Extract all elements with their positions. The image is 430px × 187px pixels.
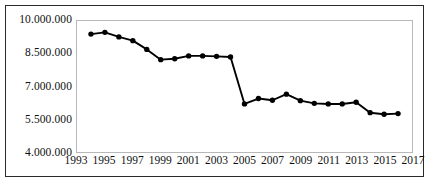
data-point xyxy=(116,34,121,39)
y-axis-tick-label: 10.000.000 xyxy=(0,14,72,26)
data-point xyxy=(256,96,261,101)
chart-figure: 10.000.0008.500.0007.000.0005.500.0004.0… xyxy=(0,0,430,187)
x-axis-tick-labels: 1993199519971999200120032005200720092011… xyxy=(76,155,413,173)
data-point xyxy=(353,100,358,105)
data-point xyxy=(367,110,372,115)
x-axis-tick-label: 2001 xyxy=(177,155,200,167)
plot-area xyxy=(76,20,413,153)
x-axis-tick-label: 2011 xyxy=(317,155,340,167)
x-axis-tick-label: 1997 xyxy=(121,155,144,167)
data-point xyxy=(214,54,219,59)
y-axis-tick-label: 5.500.000 xyxy=(0,114,72,126)
data-point xyxy=(340,101,345,106)
data-point xyxy=(242,101,247,106)
data-point xyxy=(395,111,400,116)
x-axis-tick-label: 2009 xyxy=(289,155,312,167)
y-axis-tick-label: 4.000.000 xyxy=(0,147,72,159)
data-point xyxy=(381,112,386,117)
data-point xyxy=(172,56,177,61)
x-axis-tick-label: 1999 xyxy=(149,155,172,167)
y-axis-tick-label: 7.000.000 xyxy=(0,81,72,93)
x-axis-tick-label: 2005 xyxy=(233,155,256,167)
data-point xyxy=(144,47,149,52)
data-point xyxy=(298,98,303,103)
data-point xyxy=(158,57,163,62)
data-point xyxy=(200,53,205,58)
data-point xyxy=(130,38,135,43)
data-point xyxy=(270,98,275,103)
data-point xyxy=(102,30,107,35)
x-axis-tick-label: 2003 xyxy=(205,155,228,167)
data-point xyxy=(186,53,191,58)
x-axis-tick-label: 2013 xyxy=(345,155,368,167)
data-point xyxy=(312,101,317,106)
data-point xyxy=(326,101,331,106)
x-axis-tick-label: 2017 xyxy=(402,155,425,167)
y-axis-tick-label: 8.500.000 xyxy=(0,47,72,59)
x-axis-tick-label: 1993 xyxy=(65,155,88,167)
x-axis-tick-label: 1995 xyxy=(93,155,116,167)
line-series xyxy=(77,21,412,152)
x-axis-tick-label: 2015 xyxy=(373,155,396,167)
x-axis-tick-label: 2007 xyxy=(261,155,284,167)
data-point xyxy=(228,54,233,59)
data-point xyxy=(88,31,93,36)
data-point xyxy=(284,91,289,96)
